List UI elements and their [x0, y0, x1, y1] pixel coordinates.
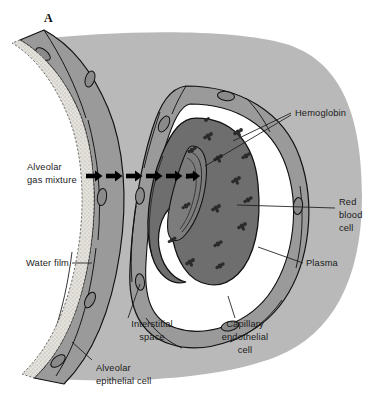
svg-text:Hemoglobin: Hemoglobin: [295, 108, 346, 118]
svg-text:epithelial cell: epithelial cell: [96, 376, 151, 386]
svg-text:Red: Red: [339, 197, 357, 207]
label-alveolar-gas-mixture: Alveolar gas mixture: [27, 162, 77, 185]
svg-text:Alveolar: Alveolar: [27, 162, 62, 172]
svg-text:cell: cell: [238, 345, 253, 355]
svg-text:Plasma: Plasma: [306, 258, 339, 268]
figure-canvas: A Hemoglobin Alveolar gas mixture Red bl…: [0, 0, 380, 398]
svg-text:Interstitial: Interstitial: [131, 319, 173, 329]
svg-text:blood: blood: [339, 210, 363, 220]
svg-text:space: space: [139, 332, 165, 342]
panel-label-a: A: [44, 11, 53, 25]
label-hemoglobin: Hemoglobin: [295, 108, 346, 118]
svg-text:Capillary: Capillary: [226, 319, 264, 329]
svg-text:endothelial: endothelial: [222, 332, 269, 342]
label-plasma: Plasma: [306, 258, 339, 268]
alveolar-capillary-diagram: A Hemoglobin Alveolar gas mixture Red bl…: [0, 0, 380, 398]
svg-text:Water film: Water film: [26, 258, 69, 268]
svg-text:cell: cell: [339, 223, 354, 233]
svg-text:Alveolar: Alveolar: [96, 363, 131, 373]
label-water-film: Water film: [26, 258, 69, 268]
svg-text:gas mixture: gas mixture: [27, 175, 77, 185]
